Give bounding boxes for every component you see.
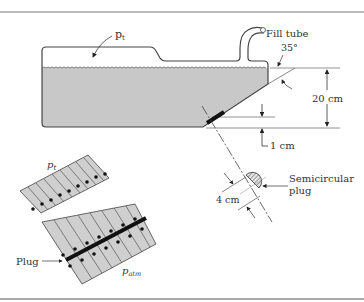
semicircular-plug-label-line1: Semicircular	[289, 173, 354, 184]
patm-label: patm	[122, 265, 141, 278]
pt-pressure-distribution	[20, 155, 109, 213]
angle-arrow-top	[278, 55, 283, 66]
liquid-region	[42, 68, 268, 127]
incline-reference-line	[268, 68, 295, 84]
plug-width-arrow-1	[224, 173, 233, 184]
fill-tube-label: Fill tube	[266, 28, 309, 39]
pt-label: pt	[115, 28, 125, 42]
fill-tube-cap	[261, 28, 266, 33]
semicircular-plug-label-line2: plug	[289, 185, 312, 196]
plug-width-label: 4 cm	[216, 194, 239, 205]
angle-arc-arrow	[282, 80, 292, 89]
tank-plug-diagram: pt Fill tube 35° 20 cm 1 cm 4 cm Semicir…	[0, 0, 364, 302]
pt-fbd-label: pt	[47, 159, 56, 172]
offset-label: 1 cm	[270, 140, 295, 151]
liquid-surface	[42, 67, 266, 68]
angle-label: 35°	[281, 42, 298, 53]
plug-width-arrow-2	[247, 207, 255, 218]
offset-leader	[262, 140, 268, 146]
plug-fbd-label: Plug	[16, 256, 39, 267]
plug-dim-line-top	[222, 177, 246, 192]
semicircular-plug	[246, 172, 262, 188]
depth-label: 20 cm	[312, 93, 344, 104]
plug-dim-line-bottom	[238, 196, 260, 210]
